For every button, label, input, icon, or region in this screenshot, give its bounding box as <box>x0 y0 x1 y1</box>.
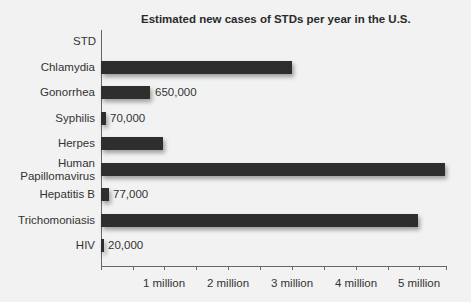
data-label: 20,000 <box>108 239 143 252</box>
x-tick <box>419 266 420 270</box>
category-label: Herpes <box>58 137 95 150</box>
chart-title: Estimated new cases of STDs per year in … <box>0 13 471 25</box>
category-label: Gonorrhea <box>40 86 95 99</box>
category-label: Trichomoniasis <box>18 214 95 227</box>
category-label: Syphilis <box>55 112 95 125</box>
data-label: 650,000 <box>155 86 197 99</box>
bar-herpes <box>101 137 163 150</box>
x-tick <box>292 266 293 270</box>
x-tick <box>356 266 357 270</box>
x-tick-label: 3 million <box>271 277 313 289</box>
x-tick-label: 2 million <box>207 277 249 289</box>
category-label: HIV <box>76 239 95 252</box>
bar-hiv <box>101 239 104 252</box>
bar-hepatitis-b <box>101 188 109 201</box>
x-tick <box>101 266 102 270</box>
category-label: Hepatitis B <box>39 188 95 201</box>
y-axis-label: STD <box>73 35 96 47</box>
x-tick-label: 1 million <box>143 277 185 289</box>
x-tick <box>228 266 229 270</box>
bar-gonorrhea <box>101 86 150 99</box>
category-label-line1: Human <box>20 157 95 170</box>
x-tick-label: 5 million <box>398 277 440 289</box>
x-tick <box>133 266 134 270</box>
x-tick <box>196 266 197 270</box>
x-tick <box>324 266 325 270</box>
bar-trichomoniasis <box>101 214 418 227</box>
x-axis-line <box>101 266 446 267</box>
category-label: Chlamydia <box>41 61 95 74</box>
x-tick <box>446 266 447 270</box>
x-tick-label: 4 million <box>335 277 377 289</box>
bar-syphilis <box>101 112 106 125</box>
data-label: 77,000 <box>113 188 148 201</box>
x-tick <box>388 266 389 270</box>
data-label: 70,000 <box>110 112 145 125</box>
x-tick <box>260 266 261 270</box>
category-label: Human Papillomavirus <box>20 157 95 183</box>
bar-chlamydia <box>101 61 292 74</box>
bar-hpv <box>101 163 445 176</box>
x-tick <box>164 266 165 270</box>
category-label-line2: Papillomavirus <box>20 170 95 183</box>
